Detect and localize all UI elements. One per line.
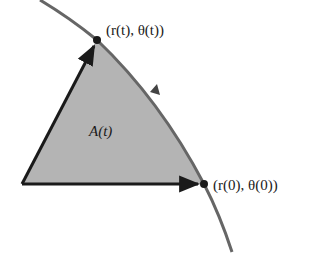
label-point-0: (r(0), θ(0)) (213, 177, 278, 194)
polar-area-diagram: (r(t), θ(t)) (r(0), θ(0)) A(t) (0, 0, 332, 271)
point-0 (200, 180, 208, 188)
point-t (93, 36, 101, 44)
label-area: A(t) (88, 123, 112, 140)
shaded-area-region (22, 40, 204, 184)
curve-direction-arrow-icon (150, 84, 160, 95)
label-point-t: (r(t), θ(t)) (106, 22, 164, 39)
